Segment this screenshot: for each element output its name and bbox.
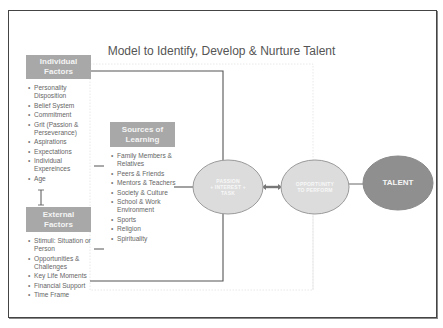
sources-of-learning-header: Sources of Learning bbox=[110, 122, 175, 147]
opportunity-line2: TO PERFORM bbox=[287, 187, 343, 193]
external-factors-title-line2: Factors bbox=[43, 220, 75, 230]
passion-line3: TASK bbox=[200, 190, 256, 196]
list-item: Family Members & Relatives bbox=[111, 152, 179, 168]
external-factors-title-line1: External bbox=[43, 210, 75, 220]
list-item: Grit (Passion & Perseverance) bbox=[28, 121, 90, 137]
list-item: Commitment bbox=[28, 111, 90, 119]
list-item: Spirituality bbox=[111, 235, 179, 243]
sources-title-line1: Sources of bbox=[122, 125, 163, 135]
list-item: Age bbox=[28, 175, 90, 183]
list-item: Belief System bbox=[28, 102, 90, 110]
sources-of-learning-list: Family Members & Relatives Peers & Frien… bbox=[111, 152, 179, 244]
list-item: Religion bbox=[111, 225, 179, 233]
list-item: Personality Disposition bbox=[28, 84, 90, 100]
talent-node-label: TALENT bbox=[368, 178, 428, 187]
list-item: Sports bbox=[111, 216, 179, 224]
list-item: Time Frame bbox=[28, 291, 92, 299]
passion-node-label: PASSION + INTEREST + TASK bbox=[200, 178, 256, 196]
individual-factors-title-line1: Individual bbox=[40, 57, 77, 67]
list-item: Aspirations bbox=[28, 138, 90, 146]
list-item: School & Work Environment bbox=[111, 198, 179, 214]
individual-factors-header: Individual Factors bbox=[26, 55, 91, 79]
opportunity-node-label: OPPORTUNITY TO PERFORM bbox=[287, 181, 343, 193]
list-item: Peers & Friends bbox=[111, 170, 179, 178]
list-item: Financial Support bbox=[28, 282, 92, 290]
sources-title-line2: Learning bbox=[122, 135, 163, 145]
list-item: Key Life Moments bbox=[28, 272, 92, 280]
list-item: Mentors & Teachers bbox=[111, 179, 179, 187]
individual-factors-title-line2: Factors bbox=[40, 67, 77, 77]
individual-factors-list: Personality Disposition Belief System Co… bbox=[28, 84, 90, 184]
list-item: Individual Expereinces bbox=[28, 157, 90, 173]
list-item: Opportunities & Challenges bbox=[28, 255, 92, 271]
external-factors-header: External Factors bbox=[26, 207, 91, 232]
list-item: Society & Culture bbox=[111, 189, 179, 197]
list-item: Stimuli: Situation or Person bbox=[28, 237, 92, 253]
external-factors-list: Stimuli: Situation or Person Opportuniti… bbox=[28, 237, 92, 301]
list-item: Expectations bbox=[28, 148, 90, 156]
